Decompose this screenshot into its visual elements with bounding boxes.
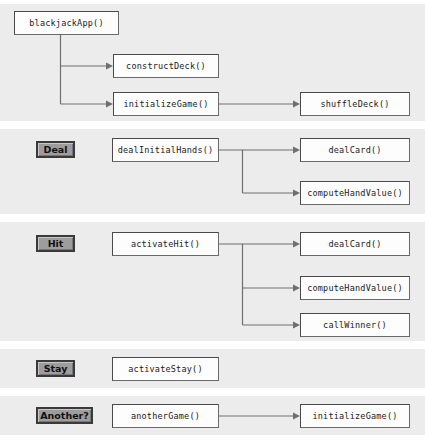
node-label: computeHandValue() [307, 284, 403, 293]
node-dealInitialHands[interactable]: dealInitialHands() [112, 138, 219, 162]
node-computeHandValue-deal[interactable]: computeHandValue() [300, 181, 410, 205]
node-constructDeck[interactable]: constructDeck() [113, 54, 219, 78]
node-label: anotherGame() [131, 412, 200, 421]
button-label: Another? [40, 410, 89, 421]
node-label: initializeGame() [312, 412, 397, 421]
node-initializeGame[interactable]: initializeGame() [113, 92, 219, 116]
button-label: Stay [44, 363, 68, 374]
call-structure-diagram: blackjackApp() constructDeck() initializ… [0, 0, 425, 445]
another-button[interactable]: Another? [36, 407, 93, 424]
node-label: blackjackApp() [29, 19, 103, 28]
node-label: activateStay() [128, 365, 202, 374]
node-label: computeHandValue() [307, 189, 403, 198]
node-label: dealCard() [328, 146, 381, 155]
stay-button[interactable]: Stay [36, 360, 75, 377]
node-label: dealInitialHands() [118, 146, 214, 155]
hit-button[interactable]: Hit [36, 235, 75, 252]
node-callWinner[interactable]: callWinner() [300, 313, 410, 337]
node-dealCard-deal[interactable]: dealCard() [300, 138, 410, 162]
node-dealCard-hit[interactable]: dealCard() [300, 232, 410, 256]
node-label: initializeGame() [123, 100, 208, 109]
node-initializeGame-another[interactable]: initializeGame() [300, 404, 410, 428]
button-label: Hit [48, 238, 64, 249]
node-label: shuffleDeck() [320, 100, 389, 109]
node-label: activateHit() [131, 240, 200, 249]
node-computeHandValue-hit[interactable]: computeHandValue() [300, 276, 410, 300]
node-activateHit[interactable]: activateHit() [112, 232, 219, 256]
node-label: dealCard() [328, 240, 381, 249]
button-label: Deal [44, 144, 68, 155]
node-label: constructDeck() [126, 62, 206, 71]
node-blackjackApp[interactable]: blackjackApp() [14, 11, 119, 35]
node-anotherGame[interactable]: anotherGame() [112, 404, 219, 428]
node-label: callWinner() [323, 321, 387, 330]
node-activateStay[interactable]: activateStay() [112, 357, 219, 381]
deal-button[interactable]: Deal [36, 141, 75, 158]
node-shuffleDeck[interactable]: shuffleDeck() [300, 92, 410, 116]
